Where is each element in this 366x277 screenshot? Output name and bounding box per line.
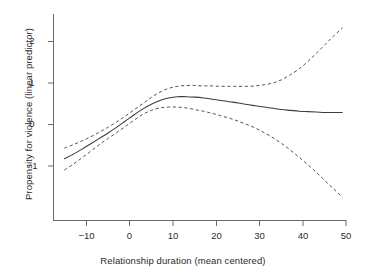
x-tick-label-neg10: −10 bbox=[74, 230, 100, 241]
fitted-smooth-curve bbox=[64, 97, 342, 159]
x-tick-label-10: 10 bbox=[160, 230, 186, 241]
axis-lines bbox=[53, 14, 346, 221]
upper-confidence-band-curve bbox=[64, 28, 342, 148]
chart-figure: 2 1 0 −1 −10 0 10 20 30 40 50 Relationsh… bbox=[0, 0, 366, 277]
x-axis-label: Relationship duration (mean centered) bbox=[0, 255, 366, 266]
x-tick-label-30: 30 bbox=[247, 230, 273, 241]
lower-confidence-band-curve bbox=[64, 107, 342, 198]
x-tick-label-40: 40 bbox=[290, 230, 316, 241]
x-tick-label-20: 20 bbox=[204, 230, 230, 241]
y-axis-ticks bbox=[48, 42, 53, 167]
y-axis-label-wrapper: Propensity for violence (linear predicto… bbox=[23, 0, 37, 229]
x-tick-label-50: 50 bbox=[333, 230, 359, 241]
data-curves bbox=[64, 28, 342, 198]
x-tick-label-0: 0 bbox=[117, 230, 143, 241]
y-axis-label: Propensity for violence (linear predicto… bbox=[23, 0, 34, 229]
